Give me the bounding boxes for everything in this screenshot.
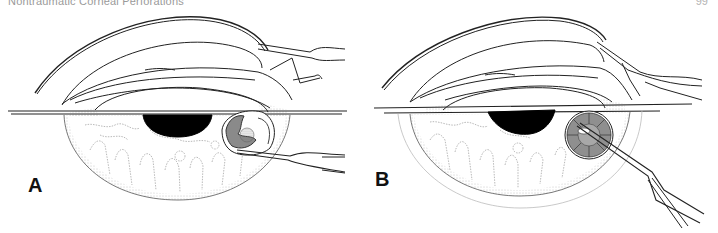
figure: A B	[0, 0, 718, 233]
panel-label-b: B	[375, 168, 389, 191]
panel-a-drawing	[8, 17, 347, 200]
panel-label-a: A	[28, 174, 42, 197]
eye-illustrations	[0, 0, 718, 233]
panel-b-drawing	[374, 17, 704, 228]
